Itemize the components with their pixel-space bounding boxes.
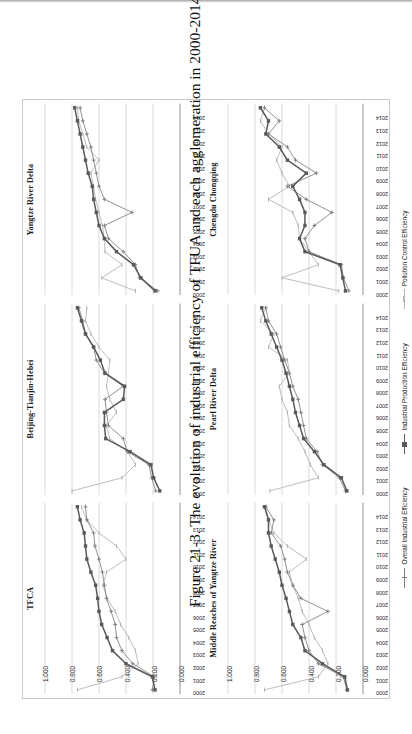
data-point-marker [270,332,273,335]
data-point-marker [283,557,287,561]
x-axis-tick-label: 2005 [376,229,388,235]
data-point-marker [97,185,101,189]
legend-item: Overall Industrial Efficiency [400,488,408,588]
data-point-marker [81,146,84,149]
data-point-marker [109,609,113,613]
panel-svg [228,503,363,694]
data-point-marker [76,505,79,508]
data-point-marker [343,675,346,678]
x-axis-tick-label: 2002 [376,266,388,272]
data-point-marker [267,518,270,521]
chart-panel: Pearl River Delta20002001200220032004200… [206,299,389,498]
data-point-marker [288,384,291,387]
data-point-marker [340,476,343,479]
x-axis-tick-label: 2013 [376,327,388,333]
data-point-marker [100,623,103,626]
x-axis-tick-label: 2000 [376,491,388,497]
x-axis-tick-label: 2005 [376,627,388,633]
series-line [79,307,156,490]
data-point-marker [298,237,301,240]
x-axis-tick-label: 2006 [376,415,388,421]
data-point-marker [152,476,155,479]
series-line [80,108,158,291]
data-point-marker [264,133,267,136]
series-line [86,507,155,690]
series-line [266,307,346,490]
x-axis-tick-label: 2009 [376,178,388,184]
data-point-marker [286,159,289,162]
data-point-marker [259,106,262,109]
x-axis-tick-label: 2000 [376,292,388,298]
data-point-marker [278,570,281,573]
x-axis-tick-label: 2012 [376,340,388,346]
data-point-marker [153,289,156,292]
x-axis-tick-label: 2013 [376,128,388,134]
x-axis-ticks: 2000200120022003200420052006200720082009… [363,303,389,494]
data-point-marker [267,531,270,534]
x-axis-tick-label: 2001 [376,279,388,285]
data-point-marker [81,119,85,123]
data-point-marker [158,489,161,492]
data-point-marker [302,436,305,439]
series-line [260,307,318,490]
x-axis-tick-label: 2006 [376,615,388,621]
data-point-marker [89,570,92,573]
chart-panel: Chengdu Chongqing20002001200220032004200… [206,100,389,299]
data-point-marker [92,345,95,348]
x-axis-tick-label: 2012 [376,141,388,147]
x-axis-tick-label: 2000 [193,690,205,696]
x-axis-tick-label: 2005 [376,428,388,434]
data-point-marker [103,423,106,426]
data-point-marker [73,106,76,109]
data-point-marker [76,306,79,309]
data-point-marker [102,198,106,202]
legend-marker-icon [400,434,408,454]
x-axis-tick-label: 2011 [376,552,388,558]
data-point-marker [302,423,306,427]
x-axis-tick-label: 2014 [376,514,388,520]
panel-svg [228,303,363,494]
chart-panel: Beijing-Tianjin-Hebei2000200120022003200… [23,299,206,498]
figure-caption-stage: Figure 21-3. The evolution of industrial… [186,7,226,607]
data-point-marker [104,436,107,439]
x-axis-tick-label: 2008 [376,191,388,197]
data-point-marker [274,557,277,560]
data-point-marker [82,531,85,534]
data-point-marker [130,211,134,215]
data-point-marker [321,662,324,665]
x-axis-tick-label: 2014 [376,116,388,122]
data-point-marker [284,597,287,600]
data-point-marker [84,159,87,162]
legend-label: Pollution Control Efficiency [401,210,408,286]
data-point-marker [303,224,306,227]
x-axis-tick-label: 2007 [376,403,388,409]
data-point-marker [115,250,118,253]
x-axis-tick-label: 2006 [193,615,205,621]
data-point-marker [93,544,97,548]
data-point-marker [291,384,295,388]
data-point-marker [94,584,97,587]
series-line [77,108,135,291]
legend-item: Industrial Production Efficiency [400,343,408,453]
x-axis-tick-label: 2007 [376,602,388,608]
data-point-marker [288,610,291,613]
x-axis-tick-label: 2014 [376,315,388,321]
data-point-marker [103,410,106,413]
data-point-marker [128,450,131,453]
data-point-marker [97,557,101,561]
series-line [266,507,347,690]
data-point-marker [97,610,100,613]
series-line [264,507,347,690]
data-point-marker [264,305,268,309]
data-point-marker [347,289,351,293]
data-point-marker [124,662,127,665]
x-axis-tick-label: 2013 [376,527,388,533]
x-axis-tick-label: 2004 [376,241,388,247]
panel-plot-area [228,503,363,694]
panel-plot-area [45,503,180,694]
data-point-marker [97,224,100,227]
x-axis-tick-label: 2001 [376,478,388,484]
panel-svg [45,303,180,494]
data-point-marker [84,544,87,547]
data-point-marker [76,119,79,122]
